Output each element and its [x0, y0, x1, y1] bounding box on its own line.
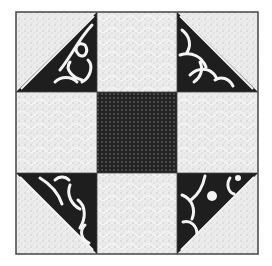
center-dark-square [97, 92, 177, 173]
middle-left-square [16, 92, 97, 173]
bottom-center-square [97, 173, 177, 254]
quilt-block [0, 0, 272, 266]
middle-right-square [177, 92, 258, 173]
top-center-square [97, 12, 177, 92]
